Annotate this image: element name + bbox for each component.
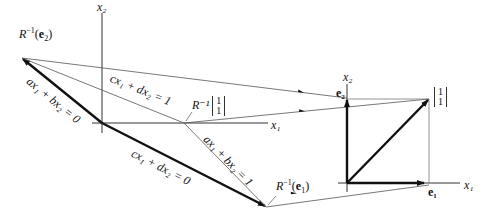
left-x1-axis-label: x₁	[271, 119, 281, 131]
vector-11-matrix: 1 1	[212, 96, 225, 116]
right-x1-axis-label: x₁	[464, 179, 474, 191]
r-inv-e2-label: RR⁻¹(e₂)−1(e2)	[19, 27, 52, 43]
right-x2-axis-label: x₂	[343, 71, 353, 83]
right-vectors	[347, 100, 428, 183]
left-thin-lines	[22, 58, 266, 207]
vector-11-label: 1 1	[434, 87, 447, 107]
vector-11-matrix-right: 1 1	[434, 87, 447, 107]
e1-label: e₁	[428, 186, 437, 198]
e2-label: e₂	[336, 87, 345, 99]
r-inv-e1-label: RR⁻¹(e₁)−1(e1)	[276, 179, 309, 195]
left-thick-vectors	[23, 59, 265, 206]
left-x2-axis-label: x₂	[97, 1, 107, 13]
r-inv-11-label: R⁻¹ 1 1	[192, 96, 225, 116]
diagram-canvas: x₂ x₁ RR⁻¹(e₂)−1(e2) RR⁻¹(e₁)−1(e1) R⁻¹ …	[0, 0, 484, 217]
